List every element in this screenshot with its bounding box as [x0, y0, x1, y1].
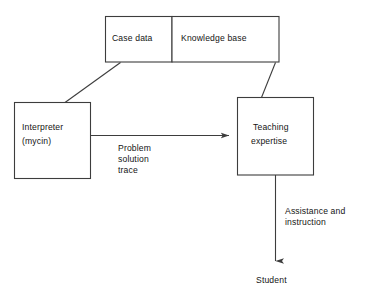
- node-case-data-box[interactable]: [106, 17, 173, 63]
- node-interpreter-box[interactable]: [15, 103, 91, 179]
- diagram-vector-layer: [0, 0, 373, 300]
- node-label-student: Student: [256, 275, 287, 285]
- node-teaching-expertise-box[interactable]: [238, 98, 314, 176]
- edge-case-data-to-interpreter: [65, 63, 121, 103]
- edge-label-assistance-and-instruction-line1: Assistance and: [285, 206, 345, 217]
- edge-label-problem-solution-trace-line2: solution: [118, 154, 149, 165]
- edge-label-problem-solution-trace-line1: Problem: [118, 143, 151, 154]
- diagram-canvas: Case data Knowledge base Interpreter (my…: [0, 0, 373, 300]
- edge-label-problem-solution-trace-line3: trace: [118, 165, 138, 176]
- node-knowledge-base-box[interactable]: [172, 17, 279, 63]
- edge-knowledge-base-to-teaching-expertise: [262, 63, 276, 98]
- node-top-boxes: [106, 17, 280, 63]
- edge-label-assistance-and-instruction-line2: instruction: [285, 217, 326, 228]
